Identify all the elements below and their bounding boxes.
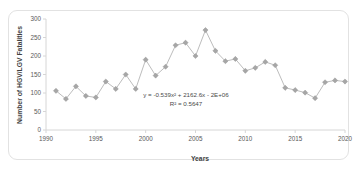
x-tick-label: 2020 (338, 135, 353, 142)
data-point-marker (293, 87, 298, 92)
x-axis-title: Years (191, 155, 209, 162)
x-tick-label: 2005 (188, 135, 203, 142)
data-point-marker (303, 90, 308, 95)
chart-figure: 050100150200250300 199019952000200520102… (0, 0, 359, 169)
x-tick-label: 2010 (238, 135, 253, 142)
data-point-marker (332, 78, 337, 83)
y-tick-label: 200 (30, 52, 41, 59)
y-tick-label: 0 (37, 126, 41, 133)
chart-svg: 050100150200250300 199019952000200520102… (0, 0, 359, 169)
data-point-marker (283, 85, 288, 90)
y-tick-label: 100 (30, 89, 41, 96)
x-tick-label: 2015 (288, 135, 303, 142)
x-tick-label: 1990 (39, 135, 54, 142)
y-axis: 050100150200250300 (30, 15, 46, 133)
y-tick-label: 150 (30, 71, 41, 78)
data-point-marker (203, 28, 208, 33)
x-tick-label: 2000 (139, 135, 154, 142)
data-point-marker (273, 63, 278, 68)
r-squared-label: R² = 0.5647 (170, 100, 203, 107)
data-point-marker (322, 80, 327, 85)
trendline-equation-label: y = -0.539x² + 2162.6x - 2E+06 (143, 91, 229, 98)
data-series-line (56, 30, 345, 99)
data-point-marker (253, 65, 258, 70)
y-tick-label: 50 (34, 108, 42, 115)
y-axis-title: Number of HGV/LGV Fatalities (16, 26, 23, 124)
data-point-marker (173, 43, 178, 48)
y-tick-label: 300 (30, 15, 41, 22)
y-tick-label: 250 (30, 34, 41, 41)
data-point-marker (342, 79, 347, 84)
data-point-marker (313, 96, 318, 101)
x-axis: 1990199520002005201020152020 (39, 130, 353, 142)
data-point-marker (93, 95, 98, 100)
x-tick-label: 1995 (89, 135, 104, 142)
data-point-marker (143, 57, 148, 62)
data-point-marker (263, 59, 268, 64)
